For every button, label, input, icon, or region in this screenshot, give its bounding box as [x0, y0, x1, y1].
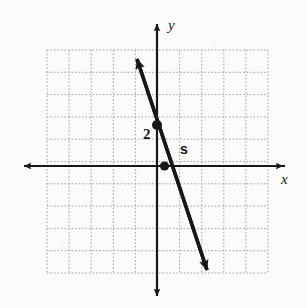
coordinate-plane — [0, 0, 307, 308]
point-y-intercept — [152, 120, 162, 130]
y-axis-label: y — [168, 18, 175, 33]
point-x-intercept — [160, 161, 169, 170]
x-axis-label: x — [281, 172, 288, 187]
y-intercept-label: 2 — [143, 127, 151, 142]
graph-figure: y x 2 s — [0, 0, 307, 308]
plotted-line-reverse — [137, 59, 207, 270]
slope-label: s — [180, 142, 188, 156]
